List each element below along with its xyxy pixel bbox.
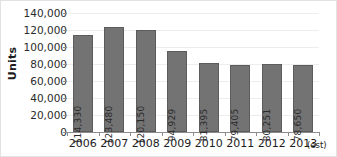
x-axis-estimate-note: (est) bbox=[307, 140, 327, 150]
x-tick-mark bbox=[162, 132, 163, 136]
x-tick-label: 2010 bbox=[195, 137, 223, 150]
y-tick-label: 60,000 bbox=[7, 75, 67, 87]
y-tick-label: 40,000 bbox=[7, 92, 67, 104]
bar[interactable]: 114,330 bbox=[73, 35, 93, 132]
x-tick-mark bbox=[67, 132, 68, 136]
y-tick-label: 20,000 bbox=[7, 109, 67, 121]
plot-area: 114,330123,480120,15094,92981,39579,4058… bbox=[67, 13, 319, 132]
y-tick-label: 140,000 bbox=[7, 7, 67, 19]
y-tick-label: 0 bbox=[7, 126, 67, 138]
y-tick-label: 80,000 bbox=[7, 58, 67, 70]
y-tick-label: 120,000 bbox=[7, 24, 67, 36]
x-tick-label: 2009 bbox=[163, 137, 191, 150]
y-axis-ticks: 020,00040,00060,00080,000100,000120,0001… bbox=[1, 1, 67, 157]
bar[interactable]: 79,405 bbox=[230, 65, 250, 132]
bar[interactable]: 81,395 bbox=[199, 63, 219, 132]
x-tick-label: 2012 bbox=[258, 137, 286, 150]
bar[interactable]: 80,251 bbox=[262, 64, 282, 132]
x-tick-mark bbox=[225, 132, 226, 136]
bar-chart: Units 020,00040,00060,00080,000100,00012… bbox=[0, 0, 337, 157]
x-tick-label: 2011 bbox=[226, 137, 254, 150]
x-tick-mark bbox=[130, 132, 131, 136]
bar[interactable]: 123,480 bbox=[104, 27, 124, 132]
x-tick-mark bbox=[99, 132, 100, 136]
x-tick-label: 2007 bbox=[100, 137, 128, 150]
x-tick-label: 2006 bbox=[69, 137, 97, 150]
x-tick-mark bbox=[319, 132, 320, 136]
x-tick-mark bbox=[193, 132, 194, 136]
x-tick-label: 2008 bbox=[132, 137, 160, 150]
y-tick-label: 100,000 bbox=[7, 41, 67, 53]
bar[interactable]: 78,650 bbox=[293, 65, 313, 132]
x-tick-mark bbox=[288, 132, 289, 136]
bar[interactable]: 94,929 bbox=[167, 51, 187, 132]
x-axis-labels: 20062007200820092010201120122013 bbox=[67, 137, 320, 155]
bars-layer: 114,330123,480120,15094,92981,39579,4058… bbox=[67, 13, 319, 132]
bar[interactable]: 120,150 bbox=[136, 30, 156, 132]
x-tick-mark bbox=[256, 132, 257, 136]
